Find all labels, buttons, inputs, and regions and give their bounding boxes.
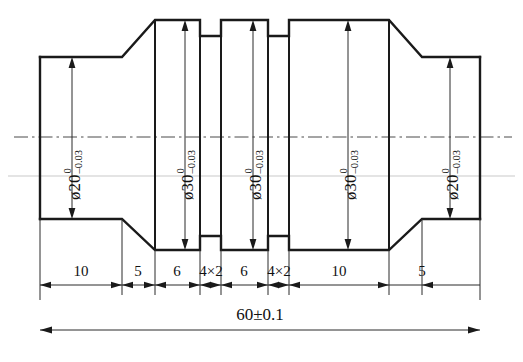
diameter-label-d3: ø300–0.03 [245, 150, 266, 200]
length-label-L6: 4×2 [249, 264, 309, 279]
dimension-diameter-d2 [182, 20, 189, 250]
tolerance-lower-d4: –0.03 [350, 150, 361, 174]
length-label-L7: 10 [309, 264, 369, 279]
tolerance-stack-d2: 0–0.03 [176, 150, 197, 174]
tolerance-lower-d5: –0.03 [452, 150, 463, 174]
dimension-row-lengths [40, 282, 480, 288]
dimension-diameter-d4 [345, 20, 352, 250]
dimension-diameter-d3 [250, 20, 257, 250]
dimension-overall-length [40, 327, 480, 334]
tolerance-lower-d3: –0.03 [255, 150, 266, 174]
diameter-label-d4: ø300–0.03 [340, 150, 361, 200]
length-label-L8: 5 [392, 264, 452, 279]
diameter-value-d1: ø20 [66, 175, 83, 201]
part-outline-lower [40, 219, 480, 250]
overall-length-label: 60±0.1 [210, 306, 310, 323]
length-label-L1: 10 [51, 264, 111, 279]
tolerance-stack-d3: 0–0.03 [244, 150, 265, 174]
diameter-value-d3: ø30 [247, 175, 264, 201]
tolerance-stack-d5: 0–0.03 [441, 150, 462, 174]
tolerance-lower-d2: –0.03 [187, 150, 198, 174]
diameter-label-d5: ø200–0.03 [442, 150, 463, 200]
diameter-value-d2: ø30 [179, 175, 196, 201]
tolerance-stack-d4: 0–0.03 [339, 150, 360, 174]
extension-lines-lengths [40, 219, 480, 300]
drawing-sheet: ø200–0.03 ø300–0.03 ø300–0.03 ø300–0.03 … [0, 0, 523, 362]
part-outline-upper [40, 20, 480, 57]
tolerance-lower-d1: –0.03 [74, 150, 85, 174]
diameter-value-d5: ø20 [444, 175, 461, 201]
diameter-label-d1: ø200–0.03 [64, 150, 85, 200]
tolerance-stack-d1: 0–0.03 [63, 150, 84, 174]
diameter-label-d2: ø300–0.03 [177, 150, 198, 200]
diameter-value-d4: ø30 [342, 175, 359, 201]
